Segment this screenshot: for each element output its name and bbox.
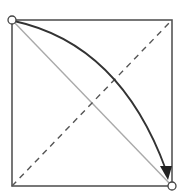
end-point-marker [168, 182, 176, 190]
start-point-marker [8, 16, 16, 24]
arrowhead-icon [160, 166, 172, 180]
square-diagonal-diagram [0, 0, 186, 194]
arc-arrow [14, 21, 166, 170]
